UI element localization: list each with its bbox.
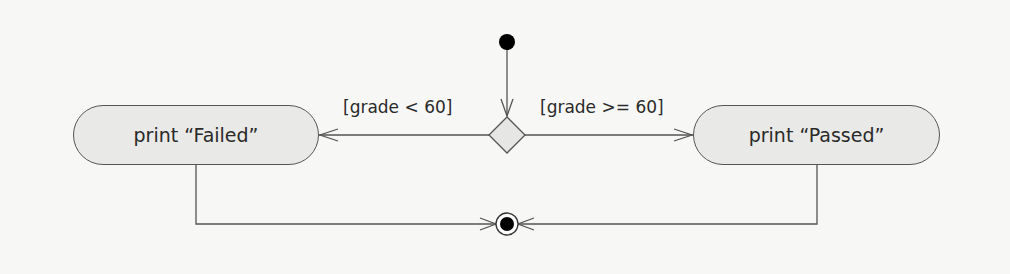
flow-passed-to-final — [518, 165, 817, 224]
guard-label-fail: [grade < 60] — [343, 97, 452, 117]
action-label: print “Passed” — [749, 124, 885, 146]
final-node-icon — [500, 217, 514, 231]
initial-node-icon — [499, 34, 515, 50]
action-print-passed: print “Passed” — [693, 105, 940, 165]
guard-label-pass: [grade >= 60] — [540, 97, 664, 117]
flow-failed-to-final — [196, 165, 497, 224]
action-label: print “Failed” — [134, 124, 259, 146]
decision-diamond-icon — [489, 117, 525, 153]
action-print-failed: print “Failed” — [73, 105, 319, 165]
